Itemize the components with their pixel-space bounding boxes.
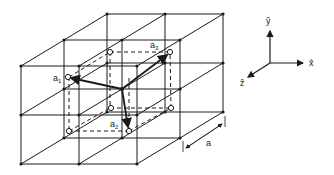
vector-a3-arrow (122, 55, 167, 89)
label-a2: a2 (110, 119, 119, 130)
axis-label-y: ŷ (266, 16, 271, 26)
axis-label-z: ẑ (240, 78, 245, 88)
z-axis-arrow (248, 63, 270, 77)
axis-label-x: x̂ (309, 58, 314, 68)
lattice-constant-dimension (183, 116, 225, 152)
label-lattice-constant: a (206, 138, 211, 148)
label-a3: a3 (150, 40, 159, 51)
lattice-diagram: a1 a2 a3 a ŷ x̂ ẑ (0, 0, 334, 175)
label-a1: a1 (53, 73, 62, 84)
coordinate-axes (248, 31, 303, 77)
